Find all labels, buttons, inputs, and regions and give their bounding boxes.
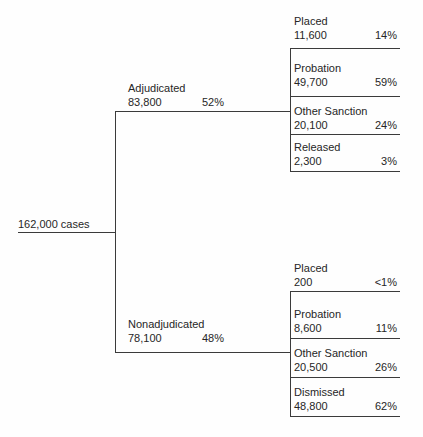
outcome-placed-nonadjudicated: Placed 200 <1% [294, 261, 397, 289]
outcome-released-adjudicated: Released 2,300 3% [294, 140, 397, 168]
outcome-name: Released [294, 140, 397, 154]
outcome-underline [290, 377, 400, 378]
outcome-other-sanction-adjudicated: Other Sanction 20,100 24% [294, 104, 397, 132]
outcome-underline [290, 171, 400, 172]
branch-name: Nonadjudicated [128, 317, 224, 331]
outcome-value: 20,500 [294, 360, 328, 374]
outcome-pct: 24% [375, 118, 397, 132]
outcome-name: Probation [294, 307, 397, 321]
outcome-value: 11,600 [294, 28, 327, 42]
outcome-value: 200 [294, 275, 312, 289]
outcome-pct: 59% [375, 75, 397, 89]
outcome-name: Other Sanction [294, 346, 397, 360]
outcome-dismissed-nonadjudicated: Dismissed 48,800 62% [294, 385, 397, 413]
outcome-underline [290, 96, 400, 97]
nonadjudicated-branch-line [115, 352, 291, 353]
outcome-value: 48,800 [294, 399, 328, 413]
outcome-pct: 3% [381, 154, 397, 168]
outcome-value: 49,700 [294, 75, 328, 89]
trunk-line [115, 111, 116, 353]
root-label: 162,000 cases [18, 217, 90, 231]
branch-pct: 52% [202, 95, 224, 109]
case-outcome-tree-diagram: 162,000 cases Adjudicated 83,800 52% Non… [0, 0, 423, 437]
outcome-name: Probation [294, 61, 397, 75]
outcome-value: 20,100 [294, 118, 328, 132]
outcome-pct: 11% [376, 321, 397, 335]
outcome-pct: 62% [375, 399, 397, 413]
branch-name: Adjudicated [128, 81, 224, 95]
outcome-pct: 26% [375, 360, 397, 374]
outcome-name: Other Sanction [294, 104, 397, 118]
outcome-probation-adjudicated: Probation 49,700 59% [294, 61, 397, 89]
outcome-pct: 14% [375, 28, 397, 42]
branch-value: 83,800 [128, 95, 162, 109]
outcome-value: 2,300 [294, 154, 322, 168]
outcome-pct: <1% [375, 275, 397, 289]
outcome-underline [290, 48, 400, 49]
outcome-value: 8,600 [294, 321, 322, 335]
branch-pct: 48% [202, 331, 224, 345]
branch-value: 78,100 [128, 331, 162, 345]
outcome-underline [290, 416, 400, 417]
outcome-placed-adjudicated: Placed 11,600 14% [294, 14, 397, 42]
branch-nonadjudicated: Nonadjudicated 78,100 48% [128, 317, 224, 345]
outcome-other-sanction-nonadjudicated: Other Sanction 20,500 26% [294, 346, 397, 374]
outcome-probation-nonadjudicated: Probation 8,600 11% [294, 307, 397, 335]
root-underline [18, 232, 115, 233]
adjudicated-outcomes-spine [290, 48, 291, 172]
outcome-name: Dismissed [294, 385, 397, 399]
branch-adjudicated: Adjudicated 83,800 52% [128, 81, 224, 109]
outcome-name: Placed [294, 14, 397, 28]
outcome-underline [290, 291, 400, 292]
outcome-underline [290, 338, 400, 339]
nonadjudicated-outcomes-spine [290, 291, 291, 417]
adjudicated-branch-line [115, 111, 291, 112]
outcome-underline [290, 134, 400, 135]
outcome-name: Placed [294, 261, 397, 275]
